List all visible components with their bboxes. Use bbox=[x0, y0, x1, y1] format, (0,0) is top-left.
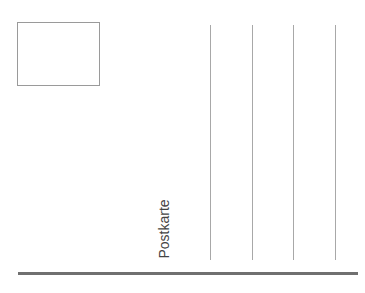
address-line bbox=[293, 25, 294, 260]
address-line bbox=[335, 25, 336, 260]
address-line bbox=[252, 25, 253, 260]
stamp-box bbox=[17, 22, 100, 86]
postcard-label: Postkarte bbox=[156, 199, 172, 258]
address-line bbox=[210, 25, 211, 260]
bottom-rule bbox=[18, 272, 358, 275]
